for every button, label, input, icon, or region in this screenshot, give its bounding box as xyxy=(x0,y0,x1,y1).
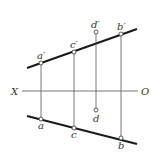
label-a-prime: a′ xyxy=(37,50,46,61)
label-axis-x: X xyxy=(10,86,19,97)
label-b: b xyxy=(118,140,124,151)
point-b-prime xyxy=(119,32,123,36)
label-c: c xyxy=(71,129,77,140)
label-d-prime: d′ xyxy=(91,19,100,30)
projection-diagram: a′ c′ d′ b′ X O d a c b xyxy=(0,0,157,163)
point-d xyxy=(94,108,98,112)
label-a: a xyxy=(38,120,44,131)
label-d: d xyxy=(93,113,99,124)
point-c-prime xyxy=(72,50,76,54)
label-c-prime: c′ xyxy=(70,39,79,50)
point-a-prime xyxy=(39,61,43,65)
label-axis-o: O xyxy=(141,86,149,97)
point-d-prime xyxy=(94,30,98,34)
label-b-prime: b′ xyxy=(117,21,126,32)
